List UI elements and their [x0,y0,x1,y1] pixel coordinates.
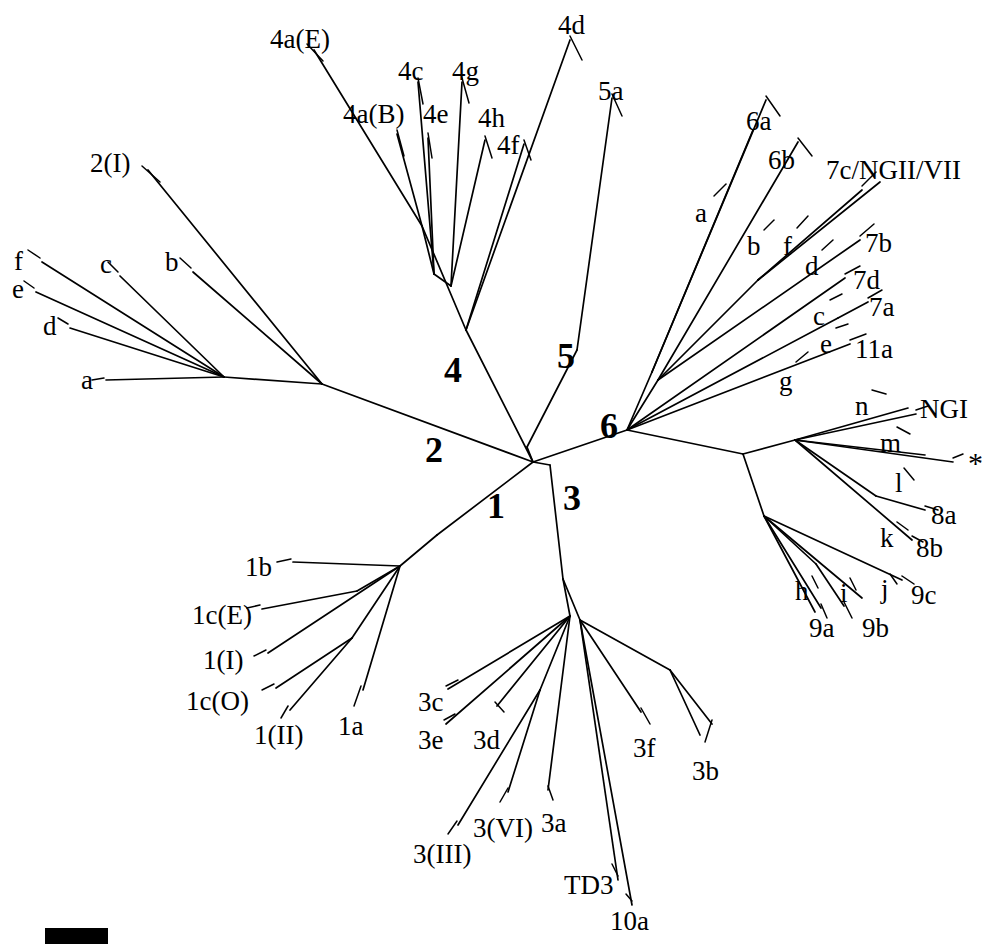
tip-7c-NGII-VII: 7c/NGII/VII [826,157,961,184]
edge-clade2-c [120,276,224,377]
leader-2I [142,166,160,182]
edge-center-link-b [533,462,550,465]
leader-4aB [397,130,404,156]
edge-clade3-TD3 [580,620,618,880]
leader-1a [354,686,361,706]
tip-7a: 7a [869,294,894,321]
tip-3-III: 3(III) [413,841,471,868]
leader-l [904,468,914,480]
edge-right-lower [743,454,764,516]
tip-4a-E: 4a(E) [270,26,330,53]
label-leader-lines [24,36,963,901]
edge-right-star [795,440,953,462]
tip-1-I: 1(I) [203,647,243,674]
edge-clade2-f [42,262,224,377]
pointer-d-clade6: d [805,253,819,280]
leader-3f [641,708,650,724]
edge-clade6-11a [627,344,850,430]
tip-6b: 6b [768,147,795,174]
tip-4h: 4h [478,105,505,132]
edge-clade1-1b [293,562,400,566]
pointer-k: k [880,525,894,552]
leader-star [953,454,963,458]
tip-e: e [12,276,24,303]
edge-clade3-hub [563,579,570,616]
leader-n [872,390,886,394]
edge-clade1-1II [290,638,352,710]
tip-a-left: a [81,367,93,394]
leader-3c [446,680,458,686]
tip-3d: 3d [473,727,500,754]
pointer-l: l [895,470,903,497]
tip-1c-E: 1c(E) [192,602,252,629]
edge-clade4-4aB [397,134,422,226]
tip-2-I: 2(I) [90,150,130,177]
leader-f-left [28,250,40,258]
tip-5a: 5a [598,78,623,105]
edge-clade3-3e [446,616,570,724]
tree-branches [36,40,953,905]
pointer-i: i [840,580,848,607]
edge-clade1-hub [400,535,437,566]
asterisk-marker: * [968,448,983,478]
edge-center-to-clade1 [437,462,533,535]
edge-clade1-1cE [262,591,357,609]
leader-c6 [830,294,842,300]
edge-clade2-b [193,272,322,384]
tip-9a: 9a [809,615,834,642]
edge-clade3-3c [448,616,570,689]
leader-3III [448,821,457,834]
leader-6b [798,138,812,156]
tip-8a: 8a [931,502,956,529]
tip-4e: 4e [423,101,448,128]
edge-clade2-a [106,377,224,380]
edge-right-8a [876,496,925,510]
tip-6a: 6a [746,108,771,135]
phylogenetic-tree-figure: 4a(E)4d4c4g5a4a(B)4e4h4f6a6b7c/NGII/VII2… [0,0,1001,944]
leader-3b [705,720,712,742]
tip-4c: 4c [398,58,423,85]
tip-11a: 11a [855,336,893,363]
edge-clade3-3d [497,616,570,706]
tip-1-II: 1(II) [254,722,303,749]
tip-9c: 9c [911,582,936,609]
pointer-b-clade6: b [747,233,761,260]
tip-4f: 4f [497,132,520,159]
leader-a6 [714,184,726,196]
pointer-f-clade6: f [783,233,792,260]
tip-d: d [43,313,57,340]
tip-3c: 3c [418,689,443,716]
clade-4: 4 [444,352,462,388]
clade-1: 1 [487,488,505,524]
clade-6: 6 [600,408,618,444]
tip-9b: 9b [862,615,889,642]
leader-f6 [797,216,808,228]
edge-clade3-3III [458,690,540,825]
edge-clade5-5a [577,98,612,350]
tip-7d: 7d [853,267,880,294]
tip-3f: 3f [633,735,656,762]
leader-e6 [836,324,848,328]
leader-4h [485,136,492,158]
edge-clade2-hub [224,377,322,384]
edge-clade6-7a [838,302,868,318]
edge-clade3-node4 [580,620,670,670]
leader-1II [281,706,288,718]
tip-8b: 8b [916,535,943,562]
tip-c: c [100,251,112,278]
leader-1cO [262,684,274,690]
edge-clade6-nodeD [627,318,838,430]
tip-1b: 1b [245,554,272,581]
edge-clade2-e [36,292,224,377]
tip-4a-B: 4a(B) [343,101,404,128]
leader-b-left [180,258,191,268]
pointer-g-clade6: g [779,368,793,395]
leader-a-left [92,378,104,380]
leader-3a [548,786,553,800]
tip-1a: 1a [338,713,363,740]
edge-right-NGI-node [743,440,795,454]
edge-center-to-clade4 [466,330,533,462]
edge-clade4-4d [466,40,570,330]
tip-1c-O: 1c(O) [186,688,249,715]
tip-TD3: TD3 [564,872,614,899]
